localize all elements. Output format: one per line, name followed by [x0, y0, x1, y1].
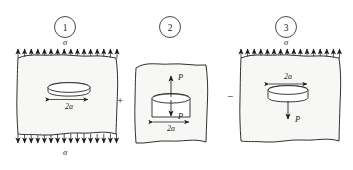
panel-3-crack: [268, 86, 308, 102]
panel-2-crack-label: 2a: [167, 124, 175, 133]
panel-1-number: 1: [63, 23, 68, 33]
panel-3-number: 3: [284, 23, 289, 33]
panel-2-number-badge: 2: [160, 17, 181, 38]
figure-canvas: 1 σ: [0, 0, 353, 170]
panel-1-crack: [48, 83, 90, 97]
panel-1-bottom-stress-label: σ: [63, 147, 68, 157]
panel-2-number: 2: [168, 23, 173, 33]
operator-minus: −: [227, 90, 233, 102]
panel-2-force-down-label: P: [177, 111, 183, 121]
panel-3: 3 σ 2a: [240, 17, 341, 143]
panel-1-top-stress-label: σ: [63, 37, 68, 47]
panel-1-crack-label: 2a: [65, 102, 73, 111]
operator-plus: +: [117, 94, 123, 106]
panel-2-force-up-label: P: [177, 72, 183, 82]
panel-3-force-down-label: P: [294, 114, 300, 124]
panel-1: 1 σ: [17, 17, 118, 158]
panel-3-number-badge: 3: [276, 17, 297, 38]
panel-3-crack-label: 2a: [284, 72, 292, 81]
superposition-figure: 1 σ: [0, 0, 353, 170]
panel-3-top-stress-label: σ: [284, 37, 289, 47]
panel-1-number-badge: 1: [55, 17, 76, 38]
panel-2: 2 P P 2a: [135, 17, 208, 144]
